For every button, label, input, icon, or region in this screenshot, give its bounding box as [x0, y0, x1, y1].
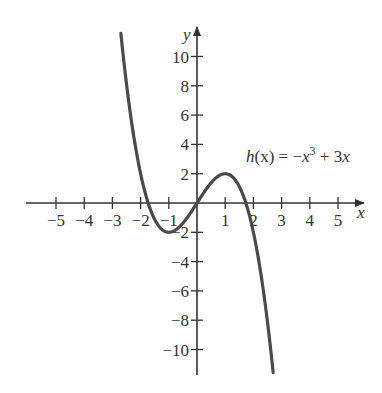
x-tick-label: −4 — [75, 211, 94, 230]
y-tick-label: −8 — [171, 311, 189, 330]
y-tick-label: 2 — [181, 165, 190, 184]
x-tick-label: −2 — [132, 211, 150, 230]
function-rest: + 3 — [316, 147, 343, 166]
y-axis-label: y — [181, 25, 191, 44]
function-name: h — [246, 147, 255, 166]
y-tick-label: −4 — [171, 253, 190, 272]
x-tick-label: 1 — [221, 211, 230, 230]
x-axis-label: x — [356, 203, 365, 222]
y-tick-label: −6 — [171, 282, 189, 301]
y-tick-label: −10 — [162, 341, 189, 360]
function-var: x — [341, 147, 350, 166]
x-tick-label: 4 — [306, 211, 315, 230]
x-tick-label: 3 — [277, 211, 286, 230]
axes — [26, 27, 364, 375]
y-tick-label: 6 — [181, 106, 190, 125]
x-tick-label: −5 — [47, 211, 65, 230]
function-label: h(x) = −x3 + 3x — [246, 144, 350, 166]
y-tick-label: 8 — [181, 77, 190, 96]
x-tick-label: −3 — [103, 211, 121, 230]
y-tick-label: 10 — [172, 48, 189, 67]
y-tick-label: 4 — [181, 135, 190, 154]
function-graph: −5−4−3−2−112345−10−8−6−4−2246810 x y h(x… — [0, 0, 382, 393]
function-arg: (x) = − — [255, 147, 303, 166]
x-tick-label: 5 — [334, 211, 343, 230]
